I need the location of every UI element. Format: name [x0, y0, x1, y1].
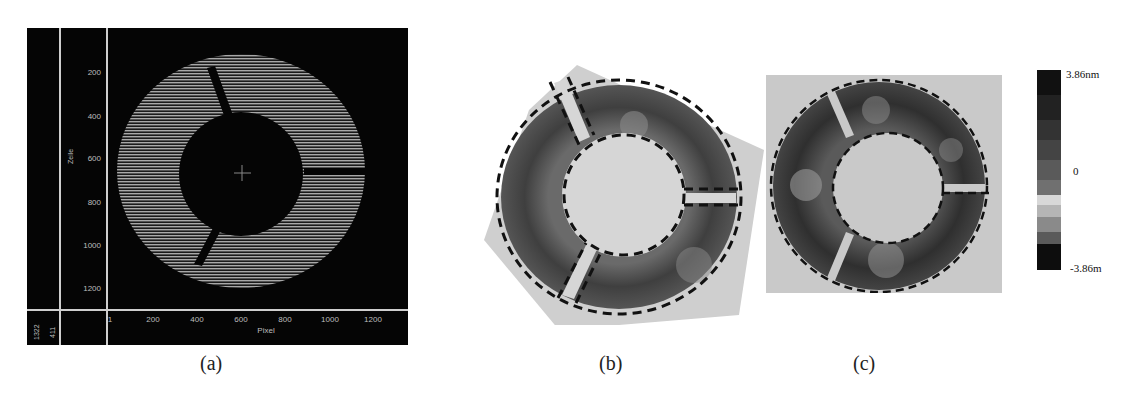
y-axis-label: Zeile	[67, 149, 74, 164]
surface-map-c	[766, 75, 1002, 293]
y-tick: 600	[71, 154, 101, 163]
colorbar	[1037, 70, 1061, 270]
panel-a-interferogram: 200 400 600 800 1000 1200 Zeile 1 200 40…	[27, 28, 408, 345]
y-tick: 800	[71, 198, 101, 207]
x-tick: 1	[95, 315, 125, 324]
panel-c-surface-map	[766, 75, 1002, 293]
caption-c: (c)	[853, 352, 875, 375]
surface-map-b	[484, 65, 764, 325]
x-tick: 1200	[358, 315, 388, 324]
x-axis-label: Pixel	[251, 326, 281, 335]
y-tick: 1200	[71, 284, 101, 293]
x-tick: 1000	[315, 315, 345, 324]
colorbar-max-label: 3.86nm	[1066, 68, 1099, 80]
corner-value: 411	[49, 327, 56, 338]
y-tick: 1000	[71, 241, 101, 250]
caption-b: (b)	[599, 352, 622, 375]
y-tick: 400	[71, 112, 101, 121]
y-tick: 200	[71, 68, 101, 77]
divider-line	[59, 28, 61, 345]
colorbar-mid-label: 0	[1073, 165, 1079, 177]
corner-value: 1322	[33, 324, 40, 340]
divider-line	[27, 309, 408, 311]
caption-a: (a)	[200, 352, 222, 375]
colorbar-min-label: -3.86m	[1070, 262, 1101, 274]
panel-b-surface-map	[484, 65, 764, 325]
x-tick: 400	[182, 315, 212, 324]
divider-line	[106, 28, 108, 345]
x-tick: 600	[226, 315, 256, 324]
x-tick: 200	[138, 315, 168, 324]
colorbar-gradient	[1037, 70, 1061, 270]
x-tick: 800	[270, 315, 300, 324]
